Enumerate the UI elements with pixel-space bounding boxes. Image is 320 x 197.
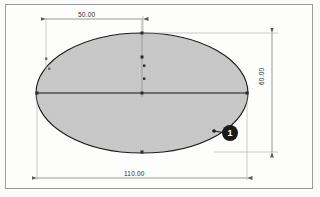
technical-drawing-canvas bbox=[0, 0, 320, 197]
dimension-label-110: 110.00 bbox=[124, 170, 145, 177]
callout-balloon-1[interactable]: 1 bbox=[222, 125, 238, 141]
dimension-label-60: 60.00 bbox=[258, 68, 265, 85]
dimension-label-50: 50.00 bbox=[78, 11, 95, 18]
drawing-screenshot: 50.00 110.00 60.00 1 bbox=[0, 0, 320, 197]
